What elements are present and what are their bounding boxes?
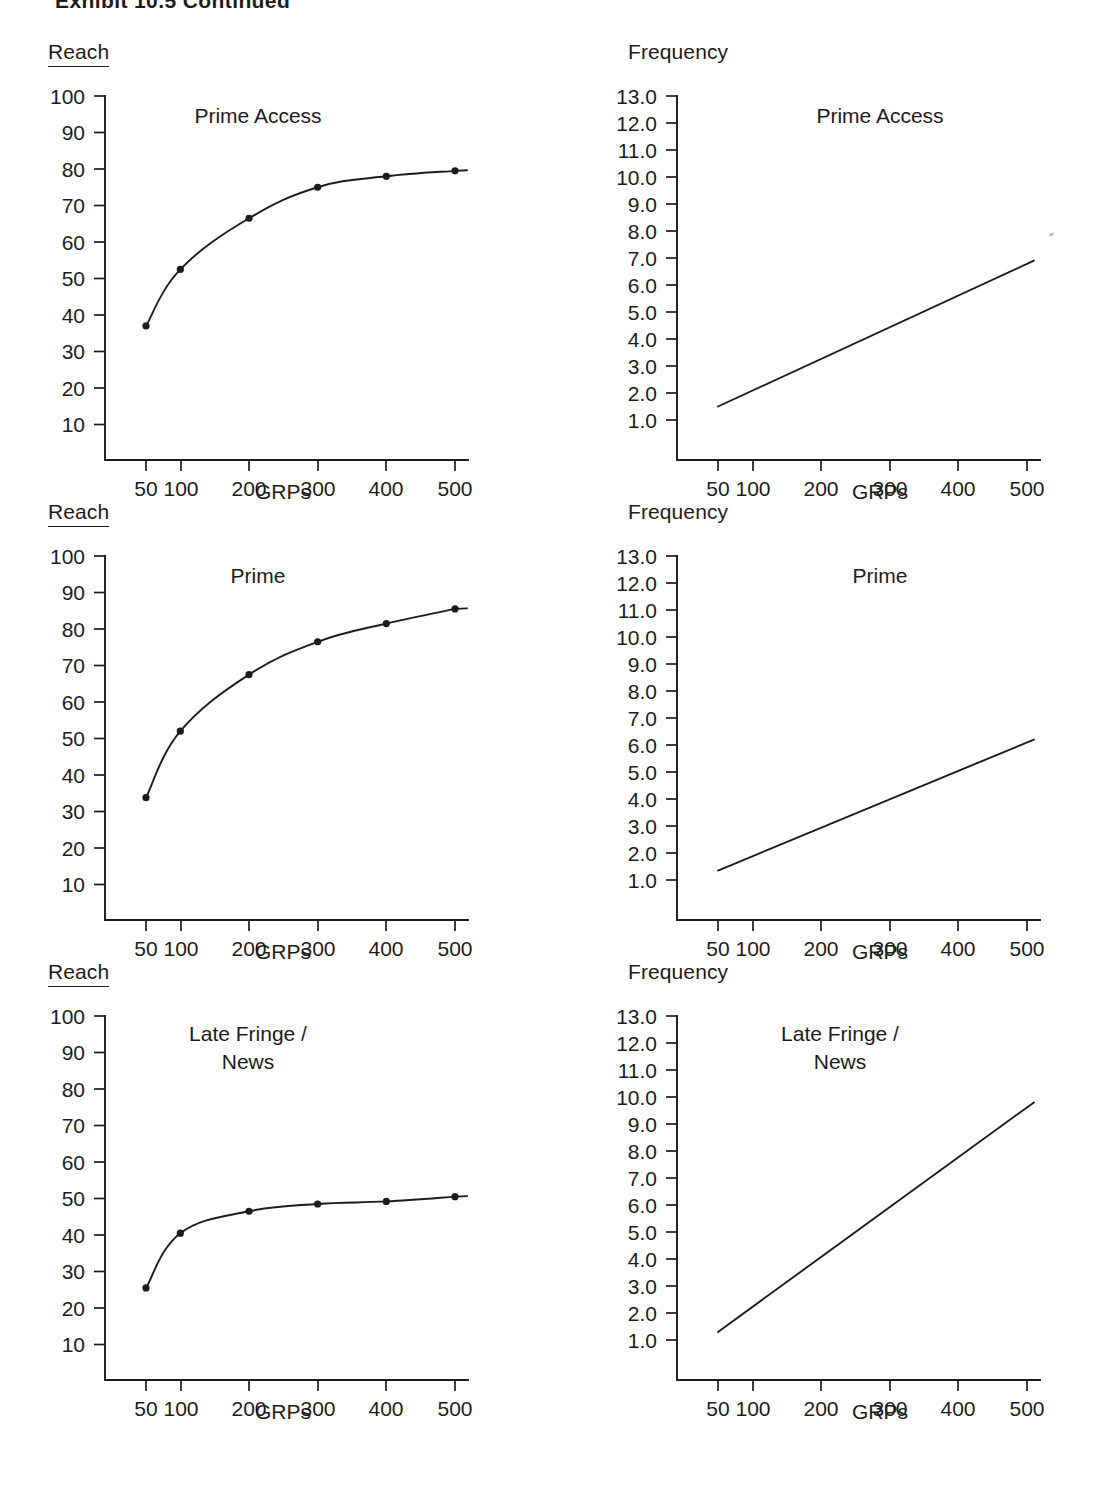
svg-text:4.0: 4.0: [628, 788, 657, 811]
svg-text:8.0: 8.0: [628, 220, 657, 243]
x-axis-title: GRPs: [223, 1400, 343, 1424]
svg-text:2.0: 2.0: [628, 382, 657, 405]
svg-text:9.0: 9.0: [628, 1113, 657, 1136]
svg-text:400: 400: [940, 1397, 975, 1420]
svg-text:8.0: 8.0: [628, 1140, 657, 1163]
plot-area-prime-reach: 10203040506070809010050100200300400500: [8, 500, 548, 970]
svg-text:100: 100: [50, 85, 85, 108]
svg-text:7.0: 7.0: [628, 247, 657, 270]
svg-text:1.0: 1.0: [628, 869, 657, 892]
svg-text:13.0: 13.0: [616, 85, 657, 108]
svg-text:8.0: 8.0: [628, 680, 657, 703]
svg-text:5.0: 5.0: [628, 1221, 657, 1244]
svg-text:50: 50: [62, 727, 85, 750]
svg-text:12.0: 12.0: [616, 112, 657, 135]
svg-text:400: 400: [368, 937, 403, 960]
svg-text:10.0: 10.0: [616, 626, 657, 649]
x-axis-title: GRPs: [820, 1400, 940, 1424]
svg-text:6.0: 6.0: [628, 1194, 657, 1217]
svg-text:30: 30: [62, 800, 85, 823]
svg-text:50: 50: [62, 267, 85, 290]
svg-text:50: 50: [134, 937, 157, 960]
chart-panel-prime-frequency: Frequency Prime 1.02.03.04.05.06.07.08.0…: [580, 500, 1112, 970]
svg-text:4.0: 4.0: [628, 1248, 657, 1271]
chart-panel-prime-reach: Reach Prime 1020304050607080901005010020…: [8, 500, 548, 970]
svg-text:2.0: 2.0: [628, 1302, 657, 1325]
svg-text:13.0: 13.0: [616, 545, 657, 568]
svg-text:100: 100: [163, 937, 198, 960]
chart-panel-prime-access-frequency: Frequency Prime Access 1.02.03.04.05.06.…: [580, 40, 1112, 510]
svg-text:50: 50: [706, 1397, 729, 1420]
svg-text:5.0: 5.0: [628, 761, 657, 784]
svg-text:3.0: 3.0: [628, 815, 657, 838]
svg-text:50: 50: [706, 477, 729, 500]
svg-text:500: 500: [437, 1397, 472, 1420]
svg-text:90: 90: [62, 121, 85, 144]
plot-area-prime-access-frequency: 1.02.03.04.05.06.07.08.09.010.011.012.01…: [580, 40, 1112, 510]
plot-area-prime-access-reach: 10203040506070809010050100200300400500: [8, 40, 548, 510]
svg-text:40: 40: [62, 764, 85, 787]
svg-text:40: 40: [62, 1224, 85, 1247]
svg-text:400: 400: [940, 937, 975, 960]
svg-text:1.0: 1.0: [628, 1329, 657, 1352]
svg-text:100: 100: [163, 477, 198, 500]
svg-text:13.0: 13.0: [616, 1005, 657, 1028]
svg-text:9.0: 9.0: [628, 193, 657, 216]
svg-text:90: 90: [62, 581, 85, 604]
svg-text:30: 30: [62, 340, 85, 363]
svg-text:10: 10: [62, 1333, 85, 1356]
svg-text:3.0: 3.0: [628, 1275, 657, 1298]
svg-text:10: 10: [62, 873, 85, 896]
svg-text:50: 50: [134, 1397, 157, 1420]
svg-text:20: 20: [62, 837, 85, 860]
svg-text:400: 400: [368, 477, 403, 500]
svg-text:60: 60: [62, 231, 85, 254]
svg-text:500: 500: [1009, 1397, 1044, 1420]
svg-text:6.0: 6.0: [628, 274, 657, 297]
svg-text:5.0: 5.0: [628, 301, 657, 324]
svg-text:400: 400: [940, 477, 975, 500]
svg-text:4.0: 4.0: [628, 328, 657, 351]
svg-text:100: 100: [50, 545, 85, 568]
svg-text:9.0: 9.0: [628, 653, 657, 676]
svg-text:12.0: 12.0: [616, 1032, 657, 1055]
svg-text:20: 20: [62, 377, 85, 400]
svg-text:100: 100: [163, 1397, 198, 1420]
chart-panel-prime-access-reach: Reach Prime Access 102030405060708090100…: [8, 40, 548, 510]
plot-area-late-fringe-reach: 10203040506070809010050100200300400500: [8, 960, 548, 1430]
svg-text:50: 50: [134, 477, 157, 500]
svg-text:10: 10: [62, 413, 85, 436]
svg-text:2.0: 2.0: [628, 842, 657, 865]
svg-text:80: 80: [62, 158, 85, 181]
svg-text:100: 100: [735, 477, 770, 500]
svg-text:100: 100: [735, 937, 770, 960]
svg-text:40: 40: [62, 304, 85, 327]
svg-text:1.0: 1.0: [628, 409, 657, 432]
svg-text:7.0: 7.0: [628, 707, 657, 730]
svg-text:70: 70: [62, 194, 85, 217]
svg-text:50: 50: [706, 937, 729, 960]
svg-text:500: 500: [437, 477, 472, 500]
svg-text:400: 400: [368, 1397, 403, 1420]
page-title: Exhibit 10.5 Continued: [55, 0, 290, 13]
svg-text:10.0: 10.0: [616, 166, 657, 189]
svg-text:30: 30: [62, 1260, 85, 1283]
svg-text:11.0: 11.0: [618, 139, 657, 162]
svg-text:90: 90: [62, 1041, 85, 1064]
svg-text:500: 500: [437, 937, 472, 960]
svg-text:70: 70: [62, 654, 85, 677]
svg-text:50: 50: [62, 1187, 85, 1210]
svg-text:500: 500: [1009, 937, 1044, 960]
svg-text:80: 80: [62, 1078, 85, 1101]
plot-area-late-fringe-frequency: 1.02.03.04.05.06.07.08.09.010.011.012.01…: [580, 960, 1112, 1430]
svg-text:7.0: 7.0: [628, 1167, 657, 1190]
svg-text:20: 20: [62, 1297, 85, 1320]
svg-text:100: 100: [50, 1005, 85, 1028]
svg-text:11.0: 11.0: [618, 1059, 657, 1082]
svg-text:12.0: 12.0: [616, 572, 657, 595]
svg-text:11.0: 11.0: [618, 599, 657, 622]
exhibit-page: Exhibit 10.5 Continued Reach Prime Acces…: [0, 0, 1112, 1500]
svg-text:10.0: 10.0: [616, 1086, 657, 1109]
plot-area-prime-frequency: 1.02.03.04.05.06.07.08.09.010.011.012.01…: [580, 500, 1112, 970]
svg-text:100: 100: [735, 1397, 770, 1420]
